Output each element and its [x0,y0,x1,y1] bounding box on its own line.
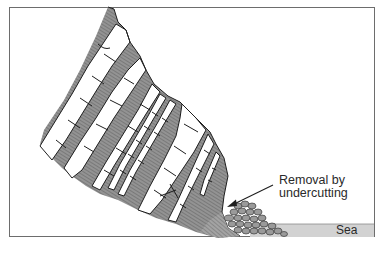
cliff-diagram [0,0,388,256]
cliff-strata [40,7,240,238]
undercutting-callout: Removal by undercutting [279,174,348,200]
callout-line-2: undercutting [279,187,348,200]
sea-label: Sea [336,224,357,237]
